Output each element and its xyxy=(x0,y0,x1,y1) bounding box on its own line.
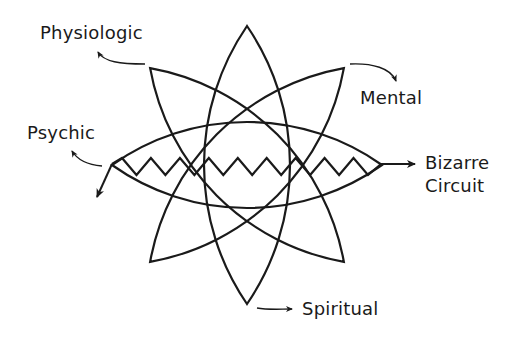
psychic-pointer-arrow xyxy=(72,151,102,166)
vertical-petal xyxy=(204,26,290,304)
bizarre-circuit-zigzag xyxy=(112,158,381,175)
label-bizarre: Bizarre xyxy=(425,153,489,173)
label-mental: Mental xyxy=(360,88,422,108)
label-psychic: Psychic xyxy=(27,123,95,143)
spiritual-pointer-arrow xyxy=(257,308,292,309)
label-circuit: Circuit xyxy=(425,176,484,196)
horizontal-petal xyxy=(112,122,382,208)
eight-point-star-diagram xyxy=(0,0,522,347)
label-spiritual: Spiritual xyxy=(302,299,379,319)
petals-group xyxy=(112,26,382,304)
left-tip-arrow xyxy=(97,164,112,197)
label-physiologic: Physiologic xyxy=(40,23,143,43)
physiologic-pointer-arrow xyxy=(98,52,145,64)
mental-pointer-arrow xyxy=(350,64,396,81)
